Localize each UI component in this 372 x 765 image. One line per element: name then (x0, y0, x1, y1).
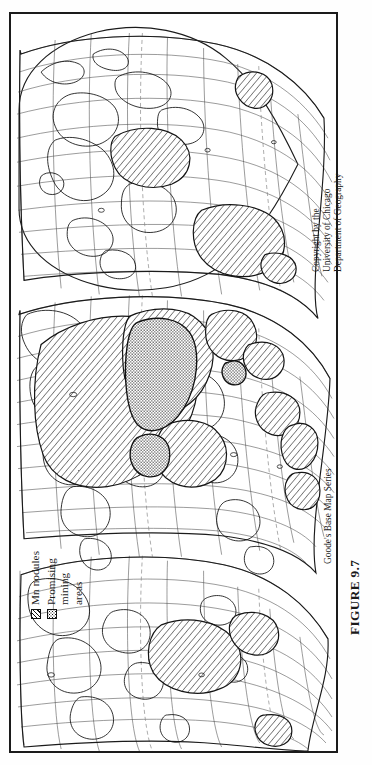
stippled-square-icon (47, 609, 57, 619)
nodule-field-indian-lobe (261, 253, 296, 283)
mining-area-central-pacific (130, 434, 170, 477)
world-map-canvas (11, 14, 336, 751)
nodule-field-north-atlantic (111, 128, 190, 187)
nodule-field-north-small (235, 72, 272, 108)
copyright-line-3: Department of Geography (333, 174, 344, 272)
nodule-field-south-atlantic (281, 424, 318, 470)
map-frame-border: Mn nodules Promising mining areas Copyri… (9, 12, 338, 753)
copyright-line-1: Copyright by the (311, 174, 322, 272)
nodule-field-bottom-small (255, 715, 292, 747)
legend-item-label-line1: Promising (45, 558, 57, 605)
copyright-line-2: University of Chicago (322, 174, 333, 272)
nodule-field-south-pacific (148, 620, 240, 693)
hatched-square-icon (31, 609, 41, 619)
nodule-field-southern-ocean (285, 472, 320, 509)
legend-item-label: Mn nodules (29, 551, 42, 605)
figure-plate: Mn nodules Promising mining areas Copyri… (0, 0, 372, 765)
map-copyright-notice: Copyright by the University of Chicago D… (311, 174, 344, 272)
legend-item-label-line3: areas (72, 558, 85, 605)
map-legend: Mn nodules Promising mining areas (29, 551, 88, 619)
nodule-field-east-pacific (243, 342, 284, 379)
legend-item-mn-nodules: Mn nodules (29, 551, 42, 619)
legend-item-promising-mining-areas: Promising mining areas (45, 551, 85, 619)
mining-area-east-pacific-small (222, 361, 246, 385)
legend-item-label-group: Promising mining areas (45, 558, 85, 605)
legend-item-label-line2: mining (58, 558, 71, 605)
figure-caption: FIGURE 9.7 (347, 560, 363, 635)
map-series-credit: Goode's Base Map Series (323, 468, 334, 564)
